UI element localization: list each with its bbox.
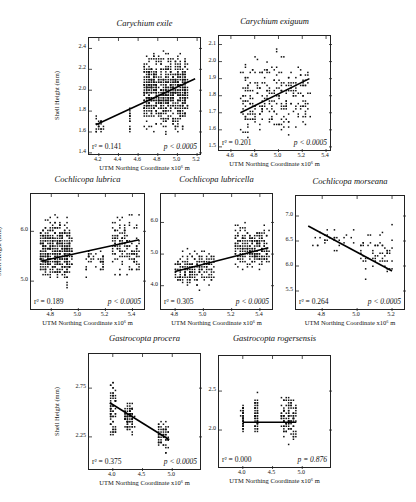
y-tick-label: 2.2 bbox=[66, 64, 86, 70]
p-value-label: p < 0.0005 bbox=[108, 297, 141, 306]
x-tick-label: 4.5 bbox=[264, 469, 280, 475]
y-tick-label: 1.9 bbox=[196, 74, 216, 80]
y-tick-label: 2.1 bbox=[196, 40, 216, 46]
y-tick-label: 2.0 bbox=[196, 425, 216, 431]
x-tick-label: 5.4 bbox=[251, 311, 267, 317]
x-axis-label: UTM Northing Coordinate x10⁶ m bbox=[198, 477, 351, 484]
x-tick-label: 5.0 bbox=[194, 311, 210, 317]
plot-area bbox=[160, 193, 273, 310]
p-value-label: p < 0.0005 bbox=[294, 138, 327, 147]
x-tick-label: 4.4 bbox=[109, 156, 125, 162]
scatter-plot bbox=[219, 356, 332, 469]
x-tick-label: 5.4 bbox=[317, 152, 333, 158]
x-tick-label: 4.0 bbox=[104, 471, 120, 477]
y-tick-label: 6.0 bbox=[138, 217, 158, 223]
plot-area bbox=[30, 193, 145, 310]
plot-area bbox=[88, 37, 201, 155]
x-tick-label: 5.0 bbox=[163, 471, 179, 477]
scatter-plot bbox=[161, 194, 274, 311]
y-tick-label: 1.5 bbox=[196, 142, 216, 148]
x-tick-label: 4.6 bbox=[222, 152, 238, 158]
y-tick-label: 1.8 bbox=[66, 106, 86, 112]
x-tick-label: 5.2 bbox=[223, 311, 239, 317]
x-axis-label: UTM Northing Coordinate x10⁶ m bbox=[198, 160, 351, 167]
x-tick-label: 4.0 bbox=[234, 469, 250, 475]
r-squared-label: r² = 0.189 bbox=[34, 297, 64, 306]
y-axis-label: Shell Height (mm) bbox=[0, 211, 2, 291]
x-tick-label: 5.2 bbox=[293, 152, 309, 158]
p-value-label: p < 0.0005 bbox=[368, 297, 401, 306]
panel-title: Carychium exiguum bbox=[198, 16, 351, 26]
p-value-label: p < 0.0005 bbox=[164, 457, 197, 466]
y-tick-label: 2.25 bbox=[66, 432, 86, 438]
x-tick-label: 4.8 bbox=[166, 311, 182, 317]
x-tick-label: 5.4 bbox=[123, 311, 139, 317]
y-tick-label: 1.6 bbox=[66, 127, 86, 133]
x-tick-label: 5.0 bbox=[69, 311, 85, 317]
r-squared-label: r² = 0.201 bbox=[222, 138, 252, 147]
panel-title: Gastrocopta rogersensis bbox=[198, 333, 351, 343]
y-tick-label: 2.4 bbox=[66, 43, 86, 49]
y-tick-label: 5.0 bbox=[138, 249, 158, 255]
figure-caption bbox=[60, 490, 360, 496]
scatter-plot bbox=[31, 194, 146, 311]
r-squared-label: r² = 0.141 bbox=[92, 142, 122, 151]
r-squared-label: r² = 0.264 bbox=[299, 297, 329, 306]
y-tick-label: 5.5 bbox=[273, 286, 293, 292]
plot-area bbox=[295, 195, 405, 310]
y-tick-label: 1.8 bbox=[196, 91, 216, 97]
x-tick-label: 4.8 bbox=[149, 156, 165, 162]
x-tick-label: 4.8 bbox=[42, 311, 58, 317]
y-tick-label: 2.0 bbox=[66, 85, 86, 91]
y-tick-label: 2.0 bbox=[196, 57, 216, 63]
p-value-label: p < 0.0005 bbox=[164, 142, 197, 151]
plot-area bbox=[218, 35, 331, 151]
scatter-plot bbox=[89, 354, 202, 471]
regression-line bbox=[308, 226, 392, 271]
scatter-plot bbox=[296, 196, 406, 311]
y-tick-label: 6.0 bbox=[8, 226, 28, 232]
p-value-label: p = 0.876 bbox=[298, 455, 327, 464]
regression-line bbox=[96, 79, 195, 125]
panel-title: Cochlicopa lubricella bbox=[140, 174, 293, 184]
x-tick-label: 4.8 bbox=[246, 152, 262, 158]
y-tick-label: 6.0 bbox=[273, 261, 293, 267]
y-tick-label: 7.0 bbox=[273, 211, 293, 217]
r-squared-label: r² = 0.375 bbox=[92, 457, 122, 466]
y-tick-label: 1.7 bbox=[196, 108, 216, 114]
p-value-label: p < 0.0005 bbox=[236, 297, 269, 306]
x-tick-label: 5.2 bbox=[383, 311, 399, 317]
r-squared-label: r² = 0.305 bbox=[164, 297, 194, 306]
x-tick-label: 5.0 bbox=[168, 156, 184, 162]
x-tick-label: 5.2 bbox=[96, 311, 112, 317]
plot-area bbox=[218, 355, 331, 468]
y-tick-label: 1.6 bbox=[196, 125, 216, 131]
y-tick-label: 5.0 bbox=[8, 276, 28, 282]
y-axis-label: Shell Height (mm) bbox=[53, 371, 60, 451]
scatter-plot bbox=[89, 38, 202, 156]
r-squared-label: r² = 0.000 bbox=[222, 455, 252, 464]
x-axis-label: UTM Northing Coordinate x10⁶ m bbox=[275, 319, 416, 326]
y-tick-label: 1.4 bbox=[66, 148, 86, 154]
plot-area bbox=[88, 353, 201, 470]
x-tick-label: 4.6 bbox=[129, 156, 145, 162]
y-tick-label: 2.75 bbox=[66, 383, 86, 389]
x-tick-label: 5.0 bbox=[348, 311, 364, 317]
x-tick-label: 5.0 bbox=[293, 469, 309, 475]
y-tick-label: 4.0 bbox=[138, 281, 158, 287]
x-tick-label: 4.5 bbox=[134, 471, 150, 477]
panel-title: Cochlicopa morseana bbox=[275, 176, 416, 186]
scatter-plot bbox=[219, 36, 332, 152]
x-axis-label: UTM Northing Coordinate x10⁶ m bbox=[140, 319, 293, 326]
y-axis-label: Shell Height (mm) bbox=[53, 56, 60, 136]
x-tick-label: 4.2 bbox=[90, 156, 106, 162]
y-tick-label: 2.5 bbox=[196, 386, 216, 392]
y-tick-label: 6.5 bbox=[273, 236, 293, 242]
x-tick-label: 5.0 bbox=[269, 152, 285, 158]
x-tick-label: 4.8 bbox=[313, 311, 329, 317]
